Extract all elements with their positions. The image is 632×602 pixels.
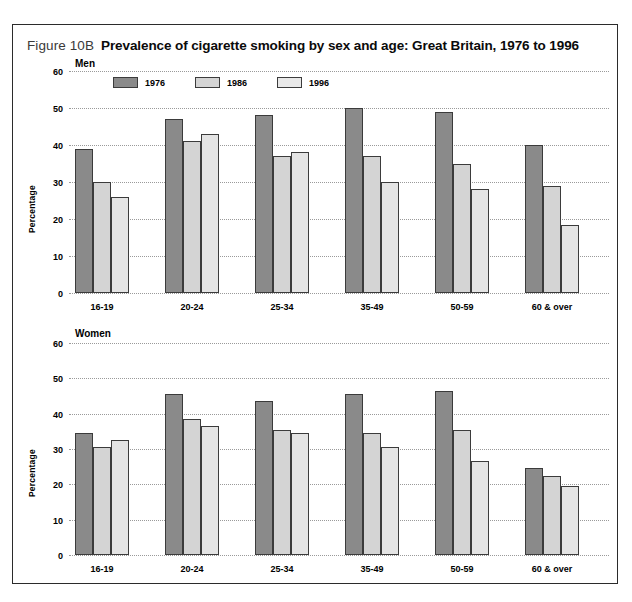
bar-women-60-&-over-1996 [561, 486, 579, 555]
y-axis-label-women: Percentage [27, 449, 37, 497]
bar-men-35-49-1996 [381, 182, 399, 293]
bar-group-bars [75, 343, 129, 555]
bar-group: 25-34 [255, 71, 309, 293]
bar-group: 25-34 [255, 343, 309, 555]
y-tick-label-women-20: 20 [53, 480, 63, 490]
bar-women-16-19-1976 [75, 433, 93, 555]
bar-women-16-19-1996 [111, 440, 129, 555]
bar-group-bars [525, 71, 579, 293]
y-tick-label-men-40: 40 [53, 141, 63, 151]
bar-men-25-34-1986 [273, 156, 291, 293]
x-tick-label-women-20-24: 20-24 [180, 564, 203, 574]
bar-men-35-49-1976 [345, 108, 363, 293]
y-tick-label-women-60: 60 [53, 339, 63, 349]
bar-group-bars [255, 71, 309, 293]
bar-men-60-&-over-1986 [543, 186, 561, 293]
bar-women-35-49-1986 [363, 433, 381, 555]
bar-men-16-19-1976 [75, 149, 93, 293]
bar-men-60-&-over-1996 [561, 225, 579, 293]
x-tick-label-women-50-59: 50-59 [450, 564, 473, 574]
x-tick-label-women-35-49: 35-49 [360, 564, 383, 574]
plot-area-men: 605040302010016-1920-2425-3435-4950-5960… [69, 71, 609, 293]
bar-group-bars [435, 343, 489, 555]
y-tick-label-men-20: 20 [53, 215, 63, 225]
bar-group: 20-24 [165, 343, 219, 555]
x-tick-label-men-35-49: 35-49 [360, 302, 383, 312]
bar-women-16-19-1986 [93, 447, 111, 555]
x-tick-label-women-25-34: 25-34 [270, 564, 293, 574]
x-tick-label-women-60-&-over: 60 & over [532, 564, 573, 574]
bar-group-bars [435, 71, 489, 293]
bar-women-60-&-over-1986 [543, 476, 561, 556]
bar-men-16-19-1996 [111, 197, 129, 293]
bar-men-20-24-1986 [183, 141, 201, 293]
figure-title-row: Figure 10BPrevalence of cigarette smokin… [27, 36, 579, 54]
bar-women-50-59-1976 [435, 391, 453, 555]
figure-frame: Figure 10BPrevalence of cigarette smokin… [12, 24, 618, 584]
bar-women-20-24-1996 [201, 426, 219, 555]
x-tick-label-men-60-&-over: 60 & over [532, 302, 573, 312]
bar-men-20-24-1976 [165, 119, 183, 293]
bar-group: 35-49 [345, 343, 399, 555]
bar-group: 20-24 [165, 71, 219, 293]
bar-men-50-59-1976 [435, 112, 453, 293]
bar-men-20-24-1996 [201, 134, 219, 293]
bar-men-35-49-1986 [363, 156, 381, 293]
bar-men-25-34-1996 [291, 152, 309, 293]
bar-women-25-34-1976 [255, 401, 273, 555]
y-tick-label-men-60: 60 [53, 67, 63, 77]
bar-women-25-34-1986 [273, 430, 291, 555]
figure-number: Figure 10B [27, 38, 94, 53]
bar-men-16-19-1986 [93, 182, 111, 293]
bar-group: 60 & over [525, 343, 579, 555]
y-tick-label-men-10: 10 [53, 252, 63, 262]
bar-group-bars [165, 343, 219, 555]
plot-area-women: 605040302010016-1920-2425-3435-4950-5960… [69, 343, 609, 555]
bar-men-50-59-1986 [453, 164, 471, 294]
gridline-women-0: 0 [69, 555, 609, 556]
bar-women-25-34-1996 [291, 433, 309, 555]
bar-group-bars [255, 343, 309, 555]
bar-group-bars [345, 71, 399, 293]
bar-group-bars [345, 343, 399, 555]
bar-women-35-49-1976 [345, 394, 363, 555]
bar-group-bars [525, 343, 579, 555]
y-tick-label-women-0: 0 [58, 551, 63, 561]
bar-group: 60 & over [525, 71, 579, 293]
bar-group-bars [75, 71, 129, 293]
bar-men-60-&-over-1976 [525, 145, 543, 293]
x-tick-label-men-50-59: 50-59 [450, 302, 473, 312]
y-tick-label-women-30: 30 [53, 445, 63, 455]
panel-heading-men: Men [75, 58, 95, 69]
bar-women-50-59-1986 [453, 430, 471, 555]
bar-group: 16-19 [75, 343, 129, 555]
x-tick-label-men-25-34: 25-34 [270, 302, 293, 312]
x-tick-label-women-16-19: 16-19 [90, 564, 113, 574]
bar-men-50-59-1996 [471, 189, 489, 293]
bar-women-20-24-1976 [165, 394, 183, 555]
y-tick-label-men-30: 30 [53, 178, 63, 188]
bar-group-bars [165, 71, 219, 293]
page-title: Prevalence of cigarette smoking by sex a… [101, 38, 579, 53]
bar-group: 50-59 [435, 343, 489, 555]
bar-women-20-24-1986 [183, 419, 201, 555]
chart-panel-women: Women Percentage 605040302010016-1920-24… [13, 325, 619, 585]
gridline-men-0: 0 [69, 293, 609, 294]
bar-women-60-&-over-1976 [525, 468, 543, 555]
y-tick-label-women-50: 50 [53, 374, 63, 384]
chart-panel-men: Men Percentage 605040302010016-1920-2425… [13, 55, 619, 325]
bar-women-50-59-1996 [471, 461, 489, 555]
panel-heading-women: Women [75, 328, 111, 339]
y-tick-label-men-0: 0 [58, 289, 63, 299]
bar-men-25-34-1976 [255, 115, 273, 293]
bar-group: 50-59 [435, 71, 489, 293]
bar-group: 16-19 [75, 71, 129, 293]
y-axis-label-men: Percentage [27, 185, 37, 233]
x-tick-label-men-16-19: 16-19 [90, 302, 113, 312]
bar-women-35-49-1996 [381, 447, 399, 555]
x-tick-label-men-20-24: 20-24 [180, 302, 203, 312]
y-tick-label-women-10: 10 [53, 516, 63, 526]
y-tick-label-women-40: 40 [53, 410, 63, 420]
bar-group: 35-49 [345, 71, 399, 293]
y-tick-label-men-50: 50 [53, 104, 63, 114]
